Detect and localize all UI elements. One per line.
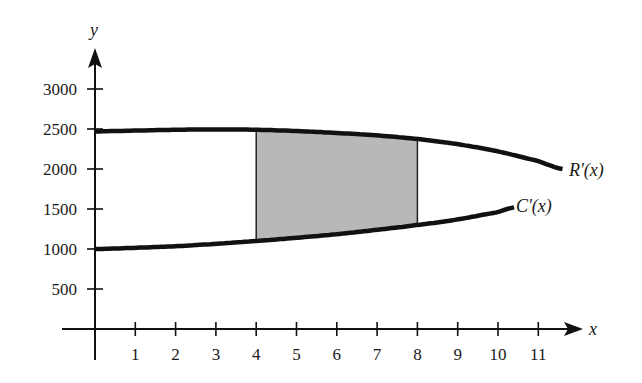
x-tick-label: 3 [212,345,221,364]
shaded-area [256,130,417,241]
y-tick-label: 1500 [43,200,77,219]
x-tick-label: 2 [171,345,180,364]
r-curve-label: R'(x) [568,160,604,181]
x-tick-label: 1 [131,345,140,364]
y-axis [88,48,102,360]
y-tick-label: 1000 [43,240,77,259]
c-curve-label: C'(x) [516,196,552,217]
chart-canvas: 123456789101150010001500200025003000 x y… [0,0,642,383]
x-tick-label: 5 [292,345,301,364]
x-tick-label: 9 [453,345,462,364]
x-tick-label: 7 [373,345,382,364]
x-tick-label: 8 [413,345,422,364]
x-tick-label: 11 [530,345,546,364]
y-tick-label: 2000 [43,160,77,179]
y-tick-label: 3000 [43,80,77,99]
x-tick-label: 4 [252,345,261,364]
x-axis [62,322,583,336]
x-axis-label: x [588,319,597,339]
x-tick-label: 6 [333,345,342,364]
y-tick-label: 500 [52,280,78,299]
y-axis-label: y [88,20,98,40]
shaded-region [256,130,417,241]
y-tick-label: 2500 [43,120,77,139]
x-tick-label: 10 [490,345,507,364]
